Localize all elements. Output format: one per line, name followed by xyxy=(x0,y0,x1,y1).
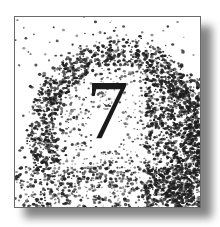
chapter-number: 7 xyxy=(15,69,200,153)
chapter-number-tile: 7 xyxy=(14,16,201,208)
